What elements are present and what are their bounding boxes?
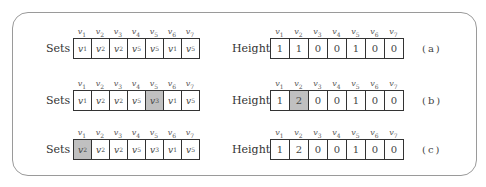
sets-cell: v2 <box>109 139 128 160</box>
sets-cell: v2 <box>91 90 110 111</box>
height-label: Height <box>232 38 270 59</box>
vertex-header: v4 <box>327 26 346 37</box>
sets-vertex-headers: v1v2v3v4v5v6v7 <box>73 26 199 37</box>
union-find-row-c: v1v2v3v4v5v6v7 Sets v2v2v2v5v3v1v5 v1v2v… <box>0 127 486 161</box>
row-caption: (c) <box>422 139 441 160</box>
vertex-header: v7 <box>181 127 199 138</box>
union-find-row-b: v1v2v3v4v5v6v7 Sets v1v2v2v5v3v1v5 v1v2v… <box>0 78 486 112</box>
height-cell: 1 <box>346 90 366 111</box>
sets-cell: v5 <box>127 90 146 111</box>
height-cell: 0 <box>365 139 385 160</box>
height-cell: 1 <box>270 90 290 111</box>
height-cell: 2 <box>289 139 309 160</box>
height-cell: 1 <box>346 38 366 59</box>
height-cell: 0 <box>308 90 328 111</box>
height-array: 1200100 <box>270 90 404 111</box>
height-cell: 0 <box>308 139 328 160</box>
sets-cell: v5 <box>145 38 164 59</box>
vertex-header: v6 <box>163 127 181 138</box>
sets-cell-highlighted: v2 <box>73 139 92 160</box>
vertex-header: v3 <box>109 78 127 89</box>
vertex-header: v6 <box>365 127 384 138</box>
sets-cell: v5 <box>181 139 200 160</box>
vertex-header: v7 <box>384 26 403 37</box>
vertex-header: v1 <box>73 78 91 89</box>
height-cell: 0 <box>365 38 385 59</box>
height-cell: 0 <box>327 139 347 160</box>
vertex-header: v3 <box>308 26 327 37</box>
vertex-header: v1 <box>270 127 289 138</box>
height-cell: 0 <box>308 38 328 59</box>
sets-vertex-headers: v1v2v3v4v5v6v7 <box>73 78 199 89</box>
height-cell: 1 <box>270 38 290 59</box>
vertex-header: v4 <box>327 78 346 89</box>
sets-cell: v5 <box>127 38 146 59</box>
height-cell: 0 <box>327 38 347 59</box>
height-cell: 0 <box>384 38 404 59</box>
height-label: Height <box>232 90 270 111</box>
sets-label: Sets <box>46 38 70 59</box>
height-array: 1200100 <box>270 139 404 160</box>
vertex-header: v6 <box>365 26 384 37</box>
vertex-header: v4 <box>127 127 145 138</box>
height-array: 1100100 <box>270 38 404 59</box>
sets-cell: v1 <box>163 139 182 160</box>
height-cell: 1 <box>346 139 366 160</box>
vertex-header: v1 <box>270 26 289 37</box>
sets-cell: v1 <box>73 90 92 111</box>
height-cell: 1 <box>270 139 290 160</box>
sets-cell: v3 <box>145 139 164 160</box>
sets-cell: v2 <box>109 38 128 59</box>
sets-label: Sets <box>46 90 70 111</box>
height-vertex-headers: v1v2v3v4v5v6v7 <box>270 127 403 138</box>
vertex-header: v6 <box>163 26 181 37</box>
vertex-header: v3 <box>308 78 327 89</box>
vertex-header: v4 <box>127 78 145 89</box>
height-label: Height <box>232 139 270 160</box>
sets-cell: v5 <box>181 90 200 111</box>
vertex-header: v1 <box>270 78 289 89</box>
sets-cell: v2 <box>109 90 128 111</box>
sets-cell: v2 <box>91 139 110 160</box>
height-vertex-headers: v1v2v3v4v5v6v7 <box>270 26 403 37</box>
vertex-header: v5 <box>346 127 365 138</box>
sets-cell: v5 <box>127 139 146 160</box>
sets-array: v1v2v2v5v3v1v5 <box>73 90 200 111</box>
height-cell: 0 <box>384 90 404 111</box>
sets-cell: v1 <box>163 38 182 59</box>
vertex-header: v2 <box>91 26 109 37</box>
sets-label: Sets <box>46 139 70 160</box>
sets-cell: v1 <box>73 38 92 59</box>
sets-cell: v5 <box>181 38 200 59</box>
sets-cell: v2 <box>91 38 110 59</box>
vertex-header: v2 <box>289 26 308 37</box>
vertex-header: v4 <box>327 127 346 138</box>
height-cell: 0 <box>384 139 404 160</box>
height-cell: 0 <box>327 90 347 111</box>
vertex-header: v3 <box>308 127 327 138</box>
row-caption: (a) <box>422 38 442 59</box>
vertex-header: v7 <box>181 26 199 37</box>
vertex-header: v1 <box>73 26 91 37</box>
row-caption: (b) <box>422 90 442 111</box>
height-cell: 1 <box>289 38 309 59</box>
sets-cell: v1 <box>163 90 182 111</box>
vertex-header: v7 <box>181 78 199 89</box>
sets-vertex-headers: v1v2v3v4v5v6v7 <box>73 127 199 138</box>
sets-cell-highlighted: v3 <box>145 90 164 111</box>
vertex-header: v5 <box>145 78 163 89</box>
vertex-header: v5 <box>145 26 163 37</box>
height-cell: 0 <box>365 90 385 111</box>
vertex-header: v2 <box>91 127 109 138</box>
vertex-header: v1 <box>73 127 91 138</box>
union-find-row-a: v1v2v3v4v5v6v7 Sets v1v2v2v5v5v1v5 v1v2v… <box>0 26 486 60</box>
vertex-header: v6 <box>163 78 181 89</box>
vertex-header: v4 <box>127 26 145 37</box>
sets-array: v2v2v2v5v3v1v5 <box>73 139 200 160</box>
height-cell-highlighted: 2 <box>289 90 309 111</box>
sets-array: v1v2v2v5v5v1v5 <box>73 38 200 59</box>
vertex-header: v2 <box>91 78 109 89</box>
vertex-header: v5 <box>145 127 163 138</box>
vertex-header: v5 <box>346 78 365 89</box>
vertex-header: v2 <box>289 78 308 89</box>
